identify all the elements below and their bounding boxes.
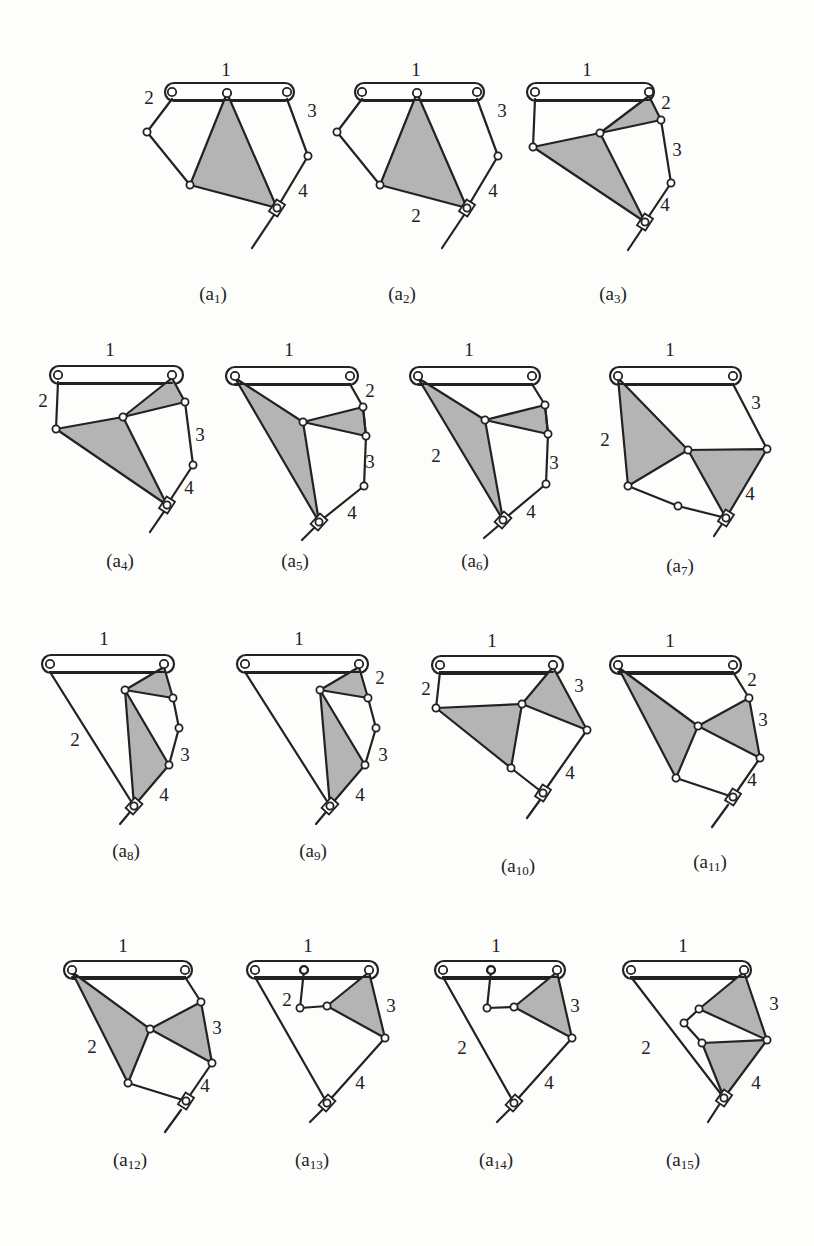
caption-prefix: (a: [113, 1149, 128, 1171]
revolute-joint: [481, 416, 488, 423]
caption-prefix: (a: [281, 550, 296, 572]
link-label-2: 2: [431, 445, 441, 466]
revolute-joint: [657, 116, 664, 123]
binary-link: [337, 99, 362, 132]
ground-pivot: [439, 966, 447, 974]
panel-a5: 1234(a5): [226, 339, 375, 573]
revolute-joint: [487, 966, 494, 973]
panel-a14: 1234(a14): [435, 935, 580, 1172]
link-label-1: 1: [464, 339, 474, 360]
ground-pivot: [365, 966, 373, 974]
caption-subscript: 10: [516, 863, 529, 878]
binary-link: [368, 698, 376, 728]
link-label-3: 3: [378, 744, 388, 765]
binary-link: [302, 528, 314, 540]
binary-link: [319, 486, 364, 522]
revolute-joint: [695, 1005, 702, 1012]
revolute-joint: [364, 694, 371, 701]
binary-link: [120, 812, 130, 824]
link-label-1: 1: [665, 630, 675, 651]
revolute-joint: [119, 413, 126, 420]
ground-pivot: [436, 661, 444, 669]
revolute-joint: [698, 1039, 705, 1046]
revolute-joint: [463, 204, 470, 211]
binary-link: [337, 132, 380, 185]
revolute-joint: [372, 724, 379, 731]
link-label-1: 1: [284, 339, 294, 360]
binary-link: [128, 1083, 186, 1101]
panel-caption: (a8): [112, 840, 140, 863]
ground-pivot: [160, 660, 168, 668]
link-label-1: 1: [118, 935, 128, 956]
link-label-3: 3: [195, 424, 205, 445]
ternary-link: [533, 133, 645, 222]
link-label-3: 3: [365, 451, 375, 472]
revolute-joint: [542, 480, 549, 487]
ground-pivot: [413, 89, 421, 97]
binary-link: [503, 484, 546, 520]
ground-link: [42, 655, 174, 673]
ternary-link: [618, 667, 698, 778]
link-label-3: 3: [769, 993, 779, 1014]
link-label-3: 3: [549, 452, 559, 473]
link-label-4: 4: [355, 1072, 365, 1093]
ground-pivot: [283, 88, 291, 96]
link-label-1: 1: [221, 59, 231, 80]
link-label-1: 1: [99, 628, 109, 649]
caption-suffix: ): [133, 840, 139, 862]
revolute-joint: [729, 793, 736, 800]
binary-link: [147, 132, 190, 185]
link-label-2: 2: [411, 205, 421, 226]
panel-caption: (a7): [666, 555, 694, 578]
caption-suffix: ): [529, 855, 535, 877]
panel-a7: 1234(a7): [600, 339, 770, 578]
link-label-4: 4: [745, 483, 755, 504]
revolute-joint: [326, 802, 333, 809]
ground-pivot: [414, 372, 422, 380]
ground-pivot: [54, 371, 62, 379]
revolute-joint: [568, 1034, 575, 1041]
ground-pivot: [528, 372, 536, 380]
panel-a11: 1234(a11): [610, 630, 768, 874]
binary-link: [661, 120, 671, 183]
ground-pivot: [531, 88, 539, 96]
panel-a8: 1234(a8): [42, 628, 190, 863]
ternary-link: [72, 972, 150, 1083]
panel-caption: (a4): [106, 550, 134, 573]
panel-a3: 1234(a3): [527, 59, 682, 306]
ground-pivot: [346, 372, 354, 380]
revolute-joint: [124, 1079, 131, 1086]
caption-suffix: ): [507, 1149, 513, 1171]
panel-caption: (a11): [693, 851, 727, 874]
ground-pivot: [740, 966, 748, 974]
revolute-joint: [296, 1004, 303, 1011]
binary-link: [712, 805, 728, 827]
link-label-2: 2: [87, 1036, 97, 1057]
revolute-joint: [756, 754, 763, 761]
binary-link: [628, 486, 678, 506]
caption-suffix: ): [687, 555, 693, 577]
caption-prefix: (a: [666, 1149, 681, 1171]
link-label-3: 3: [570, 995, 580, 1016]
link-label-3: 3: [212, 1017, 222, 1038]
revolute-joint: [694, 722, 701, 729]
revolute-joint: [143, 128, 150, 135]
revolute-joint: [763, 1036, 770, 1043]
revolute-joint: [197, 998, 204, 1005]
caption-suffix: ): [694, 1149, 700, 1171]
revolute-joint: [596, 129, 603, 136]
ground-pivot: [168, 371, 176, 379]
revolute-joint: [381, 1034, 388, 1041]
link-label-4: 4: [159, 784, 169, 805]
binary-link: [514, 1038, 572, 1103]
ternary-link: [303, 407, 366, 436]
revolute-joint: [361, 761, 368, 768]
ground-pivot: [473, 88, 481, 96]
panel-a15: 1234(a15): [623, 935, 779, 1172]
ground-link: [226, 367, 358, 385]
ternary-link: [436, 704, 522, 768]
panel-caption: (a3): [599, 283, 627, 306]
caption-suffix: ): [302, 550, 308, 572]
binary-link: [678, 506, 726, 518]
revolute-joint: [541, 401, 548, 408]
